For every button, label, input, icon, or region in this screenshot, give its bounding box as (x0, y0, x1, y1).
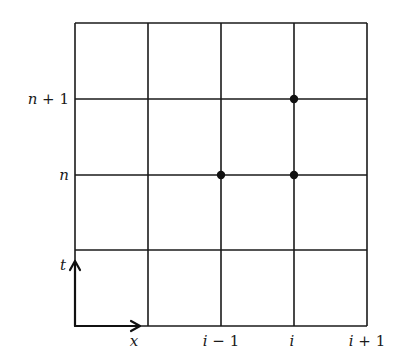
column-label-i-minus-1: i − 1 (203, 332, 239, 350)
finite-difference-grid-diagram: n + 1 n t x i − 1 i i + 1 (0, 0, 401, 356)
x-axis-label: x (130, 332, 139, 350)
row-label-n: n (59, 166, 69, 184)
column-label-i: i (290, 332, 295, 350)
node-i-n-plus-1 (290, 95, 298, 103)
node-i-minus-1-n (217, 171, 225, 179)
axis-arrows (70, 261, 140, 331)
column-label-i-plus-1: i + 1 (349, 332, 385, 350)
node-i-n (290, 171, 298, 179)
row-label-n-plus-1: n + 1 (28, 90, 69, 108)
t-axis-label: t (60, 256, 67, 274)
stencil-nodes (217, 95, 298, 179)
